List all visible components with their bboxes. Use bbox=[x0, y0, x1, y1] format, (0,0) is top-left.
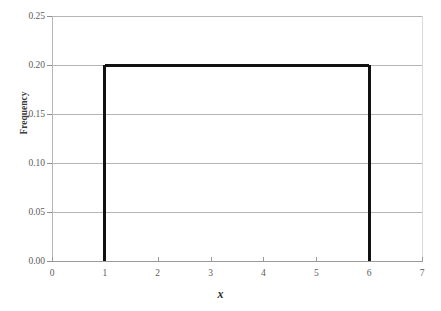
chart-figure: 0.000.050.100.150.200.25 01234567 Freque… bbox=[0, 0, 441, 311]
y-tick-label: 0.05 bbox=[28, 207, 45, 217]
x-tick-label: 7 bbox=[412, 268, 432, 279]
series-segment bbox=[105, 64, 369, 67]
gridline bbox=[52, 212, 422, 213]
gridline bbox=[52, 163, 422, 164]
x-tick-mark bbox=[263, 257, 264, 262]
y-tick-label: 0.20 bbox=[28, 60, 45, 70]
x-tick-label: 6 bbox=[359, 268, 379, 279]
x-tick-mark bbox=[316, 257, 317, 262]
y-tick-mark bbox=[47, 114, 52, 115]
y-tick-label: 0.15 bbox=[28, 109, 45, 119]
gridline bbox=[52, 16, 422, 17]
gridline bbox=[52, 114, 422, 115]
plot-right-border bbox=[422, 16, 423, 262]
x-tick-mark bbox=[211, 257, 212, 262]
x-tick-label: 1 bbox=[95, 268, 115, 279]
series-segment bbox=[103, 65, 106, 261]
y-tick-mark bbox=[47, 65, 52, 66]
y-axis-title: Frequency bbox=[19, 68, 29, 158]
x-axis-line bbox=[52, 261, 423, 262]
x-tick-label: 3 bbox=[201, 268, 221, 279]
x-axis-title: x bbox=[0, 287, 441, 302]
x-tick-label: 2 bbox=[148, 268, 168, 279]
y-tick-mark bbox=[47, 163, 52, 164]
y-tick-mark bbox=[47, 212, 52, 213]
x-tick-label: 4 bbox=[253, 268, 273, 279]
y-tick-label: 0.00 bbox=[28, 256, 45, 266]
x-tick-mark bbox=[158, 257, 159, 262]
x-tick-mark bbox=[422, 257, 423, 262]
x-tick-label: 5 bbox=[306, 268, 326, 279]
x-tick-label: 0 bbox=[42, 268, 62, 279]
y-tick-mark bbox=[47, 16, 52, 17]
y-tick-label: 0.10 bbox=[28, 158, 45, 168]
x-tick-mark bbox=[52, 257, 53, 262]
y-tick-label: 0.25 bbox=[28, 11, 45, 21]
y-axis-line bbox=[52, 16, 53, 262]
series-segment bbox=[368, 65, 371, 261]
